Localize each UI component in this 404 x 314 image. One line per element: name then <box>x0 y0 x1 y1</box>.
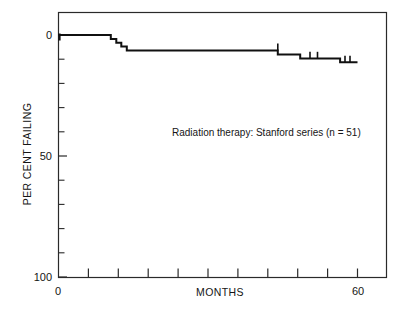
x-tick-label-60: 60 <box>345 285 371 297</box>
y-axis-title: PER CENT FAILING <box>21 84 33 224</box>
series-annotation-label: Radiation therapy: Stanford series (n = … <box>172 127 361 138</box>
plot-frame <box>59 13 387 278</box>
x-tick-label-0: 0 <box>48 285 68 297</box>
y-tick-label-100: 100 <box>18 271 52 283</box>
survival-step-curve <box>59 35 358 62</box>
x-axis-title: MONTHS <box>150 286 290 298</box>
chart-figure: 0 50 100 0 60 MONTHS PER CENT FAILING Ra… <box>0 0 404 314</box>
y-tick-label-0: 0 <box>30 29 52 41</box>
chart-plot-area <box>0 0 404 314</box>
y-axis-major-ticks <box>59 35 68 277</box>
x-axis-ticks <box>88 269 357 278</box>
